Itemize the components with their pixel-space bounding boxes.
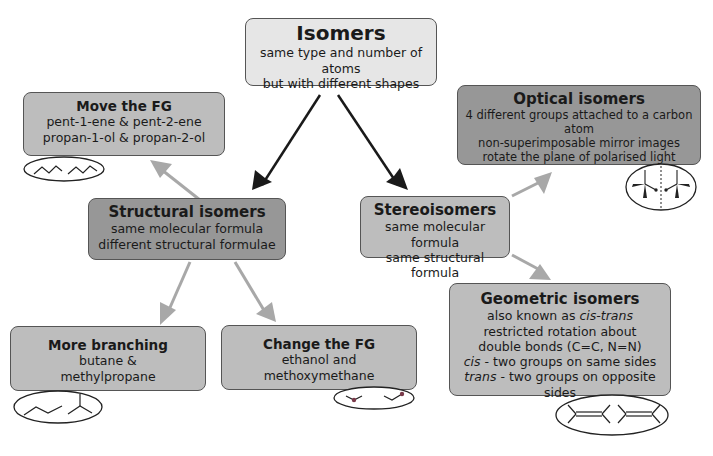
optical-line-1: 4 different groups attached to a carbon … xyxy=(458,108,700,136)
arrow-structural-to-movefg xyxy=(150,160,200,200)
structural-title: Structural isomers xyxy=(89,203,285,221)
change-fg-box: Change the FG ethanol and methoxymethane xyxy=(221,325,417,390)
geometric-isomers-box: Geometric isomers also known as cis-tran… xyxy=(449,283,671,396)
ethanol-ether-skeleton-icon xyxy=(332,385,416,411)
move-fg-line-1: pent-1-ene & pent-2-ene xyxy=(24,114,224,129)
optical-title: Optical isomers xyxy=(458,90,700,108)
root-title: Isomers xyxy=(246,21,436,45)
isomers-root-box: Isomers same type and number of atoms bu… xyxy=(245,18,437,86)
branching-title: More branching xyxy=(11,337,205,353)
root-line-1: same type and number of atoms xyxy=(246,45,436,76)
geometric-line-1: also known as cis-trans xyxy=(450,308,670,323)
arrow-stereo-to-geometric xyxy=(512,255,551,280)
move-fg-line-2: propan-1-ol & propan-2-ol xyxy=(24,130,224,145)
move-fg-title: Move the FG xyxy=(24,98,224,114)
cis-trans-term: cis-trans xyxy=(579,308,633,323)
stereo-line-2: same structural formula xyxy=(361,250,509,281)
butane-methylpropane-skeleton-icon xyxy=(12,389,104,425)
geometric-line-2: restricted rotation about xyxy=(450,324,670,339)
geometric-line-3: double bonds (C=C, N=N) xyxy=(450,339,670,354)
change-fg-line-1: ethanol and xyxy=(222,352,416,367)
zigzag-chains-icon xyxy=(22,155,106,183)
arrow-root-to-stereo xyxy=(338,95,408,190)
geometric-title: Geometric isomers xyxy=(450,290,670,308)
branching-line-2: methylpropane xyxy=(11,369,205,384)
geometric-line-cis: cis - two groups on same sides xyxy=(450,354,670,369)
change-fg-line-2: methoxymethane xyxy=(222,368,416,383)
arrow-root-to-structural xyxy=(252,95,320,190)
arrow-stereo-to-optical xyxy=(512,172,552,196)
structural-isomers-box: Structural isomers same molecular formul… xyxy=(88,198,286,260)
arrow-structural-to-changefg xyxy=(235,262,276,322)
optical-isomers-box: Optical isomers 4 different groups attac… xyxy=(457,85,701,165)
root-line-2: but with different shapes xyxy=(246,76,436,91)
geometric-aka-text: also known as xyxy=(487,308,579,323)
change-fg-title: Change the FG xyxy=(222,336,416,352)
cis-description: - two groups on same sides xyxy=(481,354,657,369)
stereoisomers-box: Stereoisomers same molecular formula sam… xyxy=(360,196,510,258)
move-fg-box: Move the FG pent-1-ene & pent-2-ene prop… xyxy=(23,92,225,156)
mirror-image-molecules-icon xyxy=(624,162,698,212)
more-branching-box: More branching butane & methylpropane xyxy=(10,326,206,391)
branching-line-1: butane & xyxy=(11,353,205,368)
stereo-line-1: same molecular formula xyxy=(361,219,509,250)
structural-line-2: different structural formulae xyxy=(89,237,285,252)
stereo-title: Stereoisomers xyxy=(361,201,509,219)
cis-trans-alkenes-icon xyxy=(554,393,670,437)
arrow-structural-to-branching xyxy=(160,262,190,325)
optical-line-2: non-superimposable mirror images xyxy=(458,136,700,150)
cis-term: cis xyxy=(464,354,481,369)
trans-term: trans xyxy=(464,369,496,384)
structural-line-1: same molecular formula xyxy=(89,221,285,236)
